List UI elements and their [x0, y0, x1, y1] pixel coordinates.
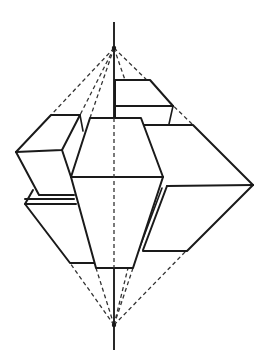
bottom-apex-point: [112, 323, 116, 327]
top-apex-point: [112, 46, 116, 50]
crystal-diagram: [0, 0, 272, 359]
